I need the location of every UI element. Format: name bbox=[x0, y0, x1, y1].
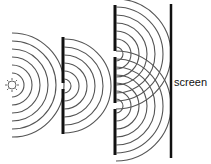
double-slit-diagram: screen bbox=[0, 0, 211, 164]
light-source-icon bbox=[5, 78, 19, 92]
screen-label: screen bbox=[174, 76, 207, 88]
slit1-wavefronts bbox=[64, 39, 111, 133]
lower-slit-wavefronts bbox=[116, 51, 171, 161]
source-wavefronts bbox=[12, 33, 64, 137]
